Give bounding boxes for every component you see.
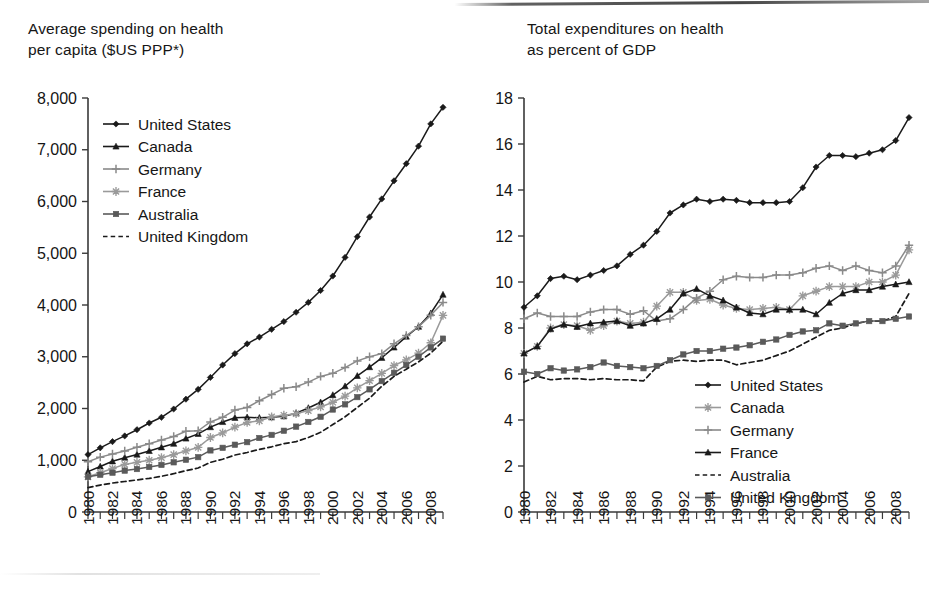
legend-item-france[interactable]: France: [103, 183, 186, 200]
legend-label: United Kingdom: [730, 489, 840, 506]
x-tick-label: 2000: [324, 490, 341, 525]
x-axis-ticks: 1980198219841986198819901992199419961998…: [516, 490, 910, 525]
legend-label: France: [730, 444, 778, 461]
y-tick-label: 10: [495, 274, 513, 291]
x-tick-label: 1984: [128, 490, 145, 525]
y-tick-label: 8: [504, 320, 513, 337]
series-australia: [85, 336, 445, 480]
legend-item-canada[interactable]: Canada: [103, 138, 193, 155]
legend-swatch-square-icon: [103, 211, 129, 216]
x-tick-label: 1998: [300, 491, 317, 525]
y-tick-label: 16: [495, 136, 513, 153]
x-tick-label: 1996: [275, 491, 292, 525]
x-tick-label: 2008: [887, 491, 904, 525]
legend-item-australia[interactable]: Australia: [695, 467, 791, 484]
y-tick-label: 7,000: [37, 141, 77, 158]
legend-item-germany[interactable]: Germany: [103, 161, 202, 178]
chart-legend: United StatesCanadaGermanyFranceAustrali…: [695, 377, 840, 507]
x-tick-label: 1986: [595, 491, 612, 525]
x-tick-label: 2006: [861, 491, 878, 525]
x-tick-label: 1982: [542, 491, 559, 525]
x-tick-label: 1984: [569, 490, 586, 525]
legend-item-united-states[interactable]: United States: [695, 377, 823, 394]
y-tick-label: 8,000: [37, 90, 77, 107]
legend-item-germany[interactable]: Germany: [695, 422, 794, 439]
legend-item-united-states[interactable]: United States: [103, 116, 231, 133]
left-plot-area: 01,0002,0003,0004,0005,0006,0007,0008,00…: [0, 0, 465, 590]
y-axis-ticks: 024681012141618: [495, 90, 524, 521]
y-tick-label: 5,000: [37, 245, 77, 262]
x-tick-label: 1988: [622, 491, 639, 525]
legend-item-canada[interactable]: Canada: [695, 399, 785, 416]
y-tick-label: 0: [504, 504, 513, 521]
series-united-states: [521, 114, 912, 310]
legend-swatch-plus-icon: [103, 165, 129, 173]
x-tick-label: 1994: [251, 490, 268, 525]
right-chart-svg: 0246810121416181980198219841986198819901…: [465, 0, 929, 590]
y-tick-label: 2: [504, 458, 513, 475]
x-tick-label: 1990: [648, 490, 665, 525]
y-tick-label: 12: [495, 228, 513, 245]
legend-swatch-diamond-icon: [695, 382, 721, 388]
x-tick-label: 1992: [675, 491, 692, 525]
series-germany: [520, 241, 913, 325]
legend-label: Germany: [730, 422, 794, 439]
legend-label: United States: [138, 116, 231, 133]
y-tick-label: 4: [504, 412, 513, 429]
legend-swatch-diamond-icon: [103, 121, 129, 127]
legend-swatch-star-icon: [103, 187, 129, 196]
x-tick-label: 1990: [202, 490, 219, 525]
x-tick-label: 2006: [398, 491, 415, 525]
x-tick-label: 2004: [373, 490, 390, 525]
legend-label: Australia: [138, 206, 199, 223]
legend-item-australia[interactable]: Australia: [103, 206, 199, 223]
y-tick-label: 3,000: [37, 348, 77, 365]
left-chart-svg: 01,0002,0003,0004,0005,0006,0007,0008,00…: [0, 0, 465, 590]
x-tick-label: 1988: [177, 491, 194, 525]
legend-label: France: [138, 183, 186, 200]
legend-swatch-triangle-icon: [695, 449, 721, 455]
series-germany: [84, 298, 447, 466]
y-tick-label: 2,000: [37, 400, 77, 417]
right-plot-area: 0246810121416181980198219841986198819901…: [465, 0, 929, 590]
legend-label: United States: [730, 377, 823, 394]
y-tick-label: 4,000: [37, 297, 77, 314]
legend-label: United Kingdom: [138, 228, 248, 245]
series-united-states: [85, 104, 446, 457]
legend-label: Canada: [138, 138, 193, 155]
x-tick-label: 1982: [104, 491, 121, 525]
chart-legend: United StatesCanadaGermanyFranceAustrali…: [103, 116, 248, 246]
x-tick-label: 2002: [349, 491, 366, 525]
x-tick-label: 1980: [516, 490, 533, 525]
axes: [524, 98, 909, 512]
y-axis-ticks: 01,0002,0003,0004,0005,0006,0007,0008,00…: [37, 90, 88, 521]
x-tick-label: 2008: [422, 491, 439, 525]
legend-item-united-kingdom[interactable]: United Kingdom: [103, 228, 248, 245]
legend-label: Australia: [730, 467, 791, 484]
left-chart-panel: Average spending on health per capita ($…: [0, 0, 465, 590]
legend-item-france[interactable]: France: [695, 444, 778, 461]
x-tick-label: 1986: [153, 491, 170, 525]
y-tick-label: 0: [68, 504, 77, 521]
x-axis-ticks: 1980198219841986198819901992199419961998…: [80, 490, 444, 525]
legend-swatch-triangle-icon: [103, 143, 129, 149]
x-tick-label: 1980: [80, 490, 97, 525]
right-chart-panel: Total expenditures on health as percent …: [465, 0, 929, 590]
legend-swatch-star-icon: [695, 403, 721, 412]
legend-label: Germany: [138, 161, 202, 178]
y-tick-label: 18: [495, 90, 513, 107]
legend-label: Canada: [730, 399, 785, 416]
series-france: [521, 279, 912, 356]
y-tick-label: 6,000: [37, 193, 77, 210]
y-tick-label: 1,000: [37, 452, 77, 469]
series-canada: [520, 245, 913, 357]
y-tick-label: 6: [504, 366, 513, 383]
x-tick-label: 1992: [226, 491, 243, 525]
y-tick-label: 14: [495, 182, 513, 199]
series-united-kingdom: [88, 341, 443, 487]
legend-swatch-plus-icon: [695, 426, 721, 434]
